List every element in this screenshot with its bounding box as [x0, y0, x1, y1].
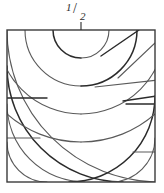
- half-fraction-label: 1 / 2: [66, 2, 100, 28]
- radial-4: [123, 96, 157, 101]
- fraction-denominator: 2: [80, 11, 86, 22]
- arc-family-bottom-right: [69, 96, 155, 182]
- edge-chords: [7, 98, 155, 152]
- figure-container: 1 / 2: [0, 0, 164, 193]
- radial-2: [118, 43, 155, 78]
- fraction-slash: /: [73, 2, 77, 16]
- radial-lines: [95, 30, 158, 101]
- fraction-numerator: 1: [66, 2, 72, 13]
- geometry-diagram: [0, 0, 164, 193]
- arc-family-top-center: [0, 30, 164, 142]
